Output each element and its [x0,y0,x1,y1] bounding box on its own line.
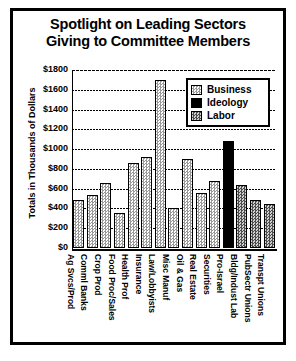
x-axis-category-label: Bldg/Indust Lab [229,254,238,318]
bar [87,195,98,248]
bar [155,80,166,248]
x-axis-category-label: Pro-Israel [215,254,224,293]
x-axis-category-labels: Ag Svcs/ProdComml BanksCrop ProdFood Pro… [72,252,276,344]
legend-label-labor: Labor [207,110,235,121]
bar [114,213,125,248]
x-label-slot: Transpt Unions [262,252,276,344]
legend-swatch-ideology-icon [191,98,202,108]
x-axis-category-label: Securities [202,254,211,295]
legend-item-ideology: Ideology [191,96,264,109]
bar-slot [86,70,100,248]
legend-item-labor: Labor [191,109,264,122]
bar [236,185,247,248]
bar [128,163,139,248]
x-axis-category-label: Health Prof [120,254,129,299]
bar-slot [72,70,86,248]
x-axis-category-label: Misc Manuf [161,254,170,300]
x-axis-line [72,249,277,251]
bar [73,200,84,248]
bar [100,183,111,248]
bar-slot [113,70,127,248]
bar [196,193,207,248]
y-axis-title: Totals in Thousands of Dollars [27,73,37,233]
legend-label-ideology: Ideology [207,97,248,108]
bar [141,157,152,248]
bar [250,200,261,248]
bar-slot [140,70,154,248]
x-axis-category-label: Real Estate [188,254,197,300]
bar [209,181,220,248]
bar [264,204,275,249]
x-axis-category-label: Transpt Unions [256,254,265,316]
bar [223,141,234,248]
bar-slot [126,70,140,248]
bar [182,159,193,248]
x-axis-category-label: Comml Banks [79,254,88,311]
y-axis-tick-label: $0 [24,243,68,252]
bar-slot [167,70,181,248]
legend-swatch-labor-icon [191,111,202,121]
legend-item-business: Business [191,83,264,96]
x-axis-category-label: Ag Svcs/Prod [66,254,75,309]
x-axis-category-label: Food Proc/Sales [107,254,116,321]
x-axis-category-label: Law/Lobbyists [147,254,156,313]
bar [168,208,179,248]
x-axis-category-label: Insurance [134,254,143,294]
legend-swatch-business-icon [191,85,202,95]
x-axis-category-label: Oil & Gas [175,254,184,292]
bar-slot [154,70,168,248]
x-axis-category-label: Crop Prod [93,254,102,296]
bar-slot [99,70,113,248]
chart-page: Spotlight on Leading Sectors Giving to C… [0,0,296,361]
y-axis-tick-labels: $1800$1600$1400$1200$1000$800$600$400$20… [18,0,68,361]
legend-label-business: Business [207,84,251,95]
x-axis-category-label: PubSectr Unions [243,254,252,322]
chart-legend: Business Ideology Labor [186,78,270,127]
